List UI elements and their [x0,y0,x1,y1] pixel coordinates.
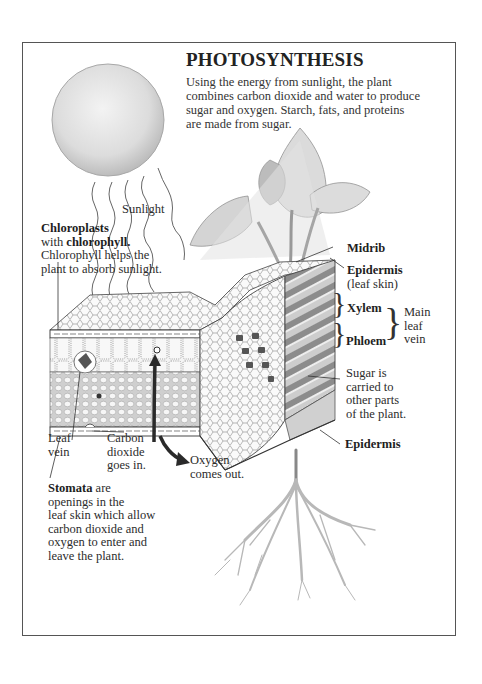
sugar-line: carried to [346,381,406,395]
stomata-line: leaf skin which allow [48,509,155,523]
stomata-line: leave the plant. [48,550,155,564]
main-leaf-vein-line: vein [404,333,430,347]
epidermis-name: Epidermis [347,264,403,278]
sugar-line: Sugar is [346,367,406,381]
intro-line: Using the energy from sunlight, the plan… [186,75,456,89]
stomata-heading-line: Stomata are [48,482,155,496]
label-carbon-dioxide: Carbon dioxide goes in. [107,432,146,473]
intro-line: are made from sugar. [186,117,456,131]
carbon-dioxide-line: dioxide [107,446,146,460]
chloroplasts-line: Chlorophyll helps the [41,249,162,263]
chloroplasts-with: with chlorophyll. [41,236,162,250]
carbon-dioxide-line: Carbon [107,432,146,446]
carbon-dioxide-line: goes in. [107,459,146,473]
leaf-vein-line: Leaf [48,432,71,446]
main-vein-brace: } [384,303,402,341]
label-oxygen: Oxygen comes out. [190,454,244,481]
main-leaf-vein-line: Main [404,306,430,320]
chloroplasts-line: plant to absorb sunlight. [41,263,162,277]
epidermis-note: (leaf skin) [347,278,403,292]
xylem-brace: } [332,288,346,318]
label-main-leaf-vein: Main leaf vein [404,306,430,347]
intro-line: combines carbon dioxide and water to pro… [186,89,456,103]
label-epidermis-top: Epidermis (leaf skin) [347,264,403,291]
label-xylem: Xylem [347,302,382,316]
phloem-brace: } [332,318,346,348]
intro-line: sugar and oxygen. Starch, fats, and prot… [186,103,456,117]
stomata-line: oxygen to enter and [48,536,155,550]
label-epidermis-bottom: Epidermis [345,438,401,452]
label-leaf-vein: Leaf vein [48,432,71,459]
label-sugar: Sugar is carried to other parts of the p… [346,367,406,421]
with-text: with [41,235,66,249]
stomata-line: carbon dioxide and [48,523,155,537]
label-midrib: Midrib [347,242,385,256]
label-stomata: Stomata are openings in the leaf skin wh… [48,482,155,563]
sun-icon [52,64,164,176]
chloroplasts-heading: Chloroplasts [41,222,162,236]
leaf-cross-section [50,260,335,470]
chlorophyll-term: chlorophyll. [66,235,130,249]
leaf-vein-line: vein [48,446,71,460]
oxygen-line: Oxygen [190,454,244,468]
stomata-rest: are [92,481,110,495]
sugar-line: of the plant. [346,408,406,422]
intro-paragraph: Using the energy from sunlight, the plan… [186,75,456,131]
label-phloem: Phloem [346,335,386,349]
plant-leaves [190,128,370,272]
stomata-term: Stomata [48,481,92,495]
main-leaf-vein-line: leaf [404,320,430,334]
page-title: PHOTOSYNTHESIS [186,49,364,71]
oxygen-line: comes out. [190,468,244,482]
label-chloroplasts: Chloroplasts with chlorophyll. Chlorophy… [41,222,162,276]
leaf-vein-icon [74,351,96,373]
sugar-line: other parts [346,394,406,408]
label-sunlight: Sunlight [122,203,164,217]
stomata-line: openings in the [48,496,155,510]
